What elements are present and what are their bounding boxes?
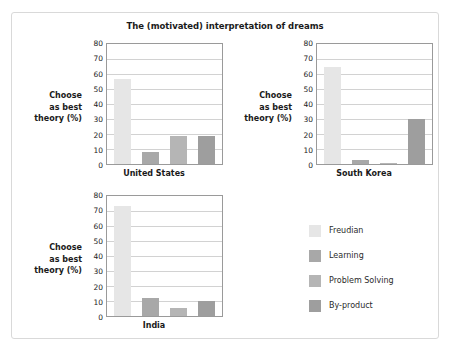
y-axis-label-us: Choose as best theory (%) bbox=[20, 90, 82, 125]
plot-area-kr bbox=[316, 43, 433, 165]
bar-problem-solving-us bbox=[170, 136, 187, 164]
axis-label-line-3: theory (%) bbox=[20, 113, 82, 125]
legend-swatch-freudian bbox=[309, 225, 321, 237]
axis-label-line-3: theory (%) bbox=[20, 265, 82, 277]
y-tick: 70 bbox=[93, 206, 103, 215]
axis-label-line-2: as best bbox=[230, 102, 292, 114]
y-ticks-us: 80 70 60 50 40 30 20 10 0 bbox=[85, 43, 105, 165]
y-tick: 20 bbox=[93, 282, 103, 291]
legend-label-by-product: By-product bbox=[329, 301, 373, 310]
axis-label-line-3: theory (%) bbox=[230, 113, 292, 125]
legend-label-freudian: Freudian bbox=[329, 226, 363, 235]
y-tick: 10 bbox=[303, 145, 313, 154]
bar-freudian-kr bbox=[324, 67, 341, 164]
axis-label-line-2: as best bbox=[20, 254, 82, 266]
y-tick: 60 bbox=[93, 221, 103, 230]
bars-us bbox=[107, 44, 222, 164]
bar-by-product-kr bbox=[408, 119, 425, 164]
y-axis-label-kr: Choose as best theory (%) bbox=[230, 90, 292, 125]
y-tick: 80 bbox=[93, 191, 103, 200]
bar-by-product-in bbox=[198, 301, 215, 316]
axis-label-line-2: as best bbox=[20, 102, 82, 114]
bar-by-product-us bbox=[198, 136, 215, 164]
legend-item-learning: Learning bbox=[309, 243, 394, 268]
legend-item-freudian: Freudian bbox=[309, 218, 394, 243]
y-tick: 10 bbox=[93, 297, 103, 306]
y-tick: 20 bbox=[303, 130, 313, 139]
y-tick: 50 bbox=[303, 84, 313, 93]
y-tick: 80 bbox=[303, 39, 313, 48]
y-tick: 10 bbox=[93, 145, 103, 154]
y-tick: 40 bbox=[93, 100, 103, 109]
bar-learning-us bbox=[142, 152, 159, 164]
plot-wrap-kr: 80 70 60 50 40 30 20 10 0 bbox=[295, 43, 433, 165]
bars-kr bbox=[317, 44, 432, 164]
y-ticks-in: 80 70 60 50 40 30 20 10 0 bbox=[85, 195, 105, 317]
panel-south-korea: Choose as best theory (%) 80 70 60 50 40… bbox=[230, 43, 438, 191]
y-tick: 30 bbox=[93, 267, 103, 276]
y-tick: 60 bbox=[93, 69, 103, 78]
bar-problem-solving-in bbox=[170, 308, 187, 316]
category-label-kr: South Korea bbox=[295, 169, 433, 178]
panel-india: Choose as best theory (%) 80 70 60 50 40… bbox=[20, 195, 226, 343]
bar-problem-solving-kr bbox=[380, 163, 397, 165]
bar-learning-kr bbox=[352, 160, 369, 164]
legend-label-problem-solving: Problem Solving bbox=[329, 276, 394, 285]
bar-freudian-in bbox=[114, 206, 131, 316]
y-tick: 50 bbox=[93, 84, 103, 93]
y-tick: 70 bbox=[93, 54, 103, 63]
legend-swatch-problem-solving bbox=[309, 275, 321, 287]
y-axis-label-in: Choose as best theory (%) bbox=[20, 242, 82, 277]
y-tick: 30 bbox=[93, 115, 103, 124]
bars-in bbox=[107, 196, 222, 316]
legend-item-by-product: By-product bbox=[309, 293, 394, 318]
category-label-us: United States bbox=[85, 169, 223, 178]
legend-label-learning: Learning bbox=[329, 251, 364, 260]
legend-swatch-by-product bbox=[309, 300, 321, 312]
plot-wrap-in: 80 70 60 50 40 30 20 10 0 bbox=[85, 195, 223, 317]
chart-legend: Freudian Learning Problem Solving By-pro… bbox=[309, 218, 394, 318]
axis-label-line-1: Choose bbox=[230, 90, 292, 102]
bar-freudian-us bbox=[114, 79, 131, 165]
legend-swatch-learning bbox=[309, 250, 321, 262]
y-tick: 30 bbox=[303, 115, 313, 124]
y-tick: 80 bbox=[93, 39, 103, 48]
plot-area-in bbox=[106, 195, 223, 317]
y-ticks-kr: 80 70 60 50 40 30 20 10 0 bbox=[295, 43, 315, 165]
y-tick: 70 bbox=[303, 54, 313, 63]
y-tick: 40 bbox=[303, 100, 313, 109]
y-tick: 50 bbox=[93, 236, 103, 245]
axis-label-line-1: Choose bbox=[20, 242, 82, 254]
y-tick: 40 bbox=[93, 252, 103, 261]
panel-united-states: Choose as best theory (%) 80 70 60 50 40… bbox=[20, 43, 226, 191]
legend-item-problem-solving: Problem Solving bbox=[309, 268, 394, 293]
y-tick: 20 bbox=[93, 130, 103, 139]
figure-frame: The (motivated) interpretation of dreams… bbox=[11, 12, 439, 339]
plot-area-us bbox=[106, 43, 223, 165]
axis-label-line-1: Choose bbox=[20, 90, 82, 102]
chart-title: The (motivated) interpretation of dreams bbox=[12, 21, 438, 31]
plot-wrap-us: 80 70 60 50 40 30 20 10 0 bbox=[85, 43, 223, 165]
bar-learning-in bbox=[142, 298, 159, 316]
category-label-in: India bbox=[85, 321, 223, 330]
y-tick: 60 bbox=[303, 69, 313, 78]
